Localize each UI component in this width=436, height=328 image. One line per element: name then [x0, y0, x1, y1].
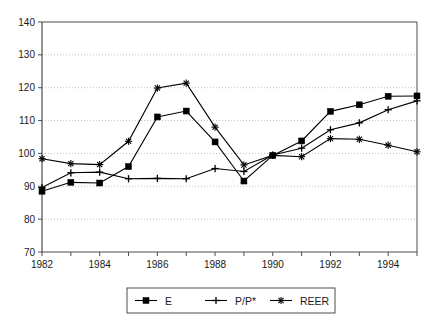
datapoint-REER-1988-asterisk-marker [211, 124, 218, 131]
datapoint-PP-1987-plus-marker [183, 175, 190, 182]
datapoint-PP-1985-plus-marker [125, 175, 132, 182]
datapoint-E-1985-square-marker [126, 164, 132, 170]
x-tick-label-1986: 1986 [146, 259, 169, 270]
datapoint-REER-1990-asterisk-marker [269, 152, 276, 159]
x-tick-label-1994: 1994 [377, 259, 400, 270]
y-tick-label-140: 140 [18, 17, 35, 28]
x-axis: 1982198419861988199019921994 [31, 252, 417, 270]
line-chart: 7080901001101201301401982198419861988199… [0, 0, 436, 328]
x-tick-label-1988: 1988 [204, 259, 227, 270]
y-tick-label-90: 90 [24, 181, 36, 192]
datapoint-E-1984-square-marker [97, 180, 103, 186]
datapoint-REER-1989-asterisk-marker [240, 161, 247, 168]
datapoint-PP-1983-plus-marker [67, 169, 74, 176]
datapoint-E-1994-square-marker [385, 93, 391, 99]
datapoint-REER-1995-asterisk-marker [413, 148, 420, 155]
datapoint-PP-1991-plus-marker [298, 145, 305, 152]
y-tick-label-70: 70 [24, 247, 36, 258]
y-tick-label-80: 80 [24, 214, 36, 225]
datapoint-REER-1994-asterisk-marker [385, 142, 392, 149]
y-tick-label-110: 110 [19, 115, 35, 126]
datapoint-E-1986-square-marker [154, 114, 160, 120]
legend-label-PP: P/P* [235, 295, 256, 307]
datapoint-E-1992-square-marker [327, 108, 333, 114]
legend-label-REER: REER [300, 295, 330, 307]
datapoint-REER-1991-asterisk-marker [298, 153, 305, 160]
series-line-E [42, 96, 417, 191]
datapoint-REER-1985-asterisk-marker [125, 138, 132, 145]
datapoint-REER-1983-asterisk-marker [67, 160, 74, 167]
y-tick-label-120: 120 [18, 82, 35, 93]
datapoint-PP-1989-plus-marker [240, 168, 247, 175]
y-tick-label-100: 100 [18, 148, 35, 159]
datapoint-PP-1986-plus-marker [154, 175, 161, 182]
datapoint-PP-1992-plus-marker [327, 126, 334, 133]
y-tick-label-130: 130 [18, 49, 35, 60]
datapoint-E-1991-square-marker [299, 138, 305, 144]
datapoint-REER-1984-asterisk-marker [96, 161, 103, 168]
series-REER [38, 80, 420, 169]
x-tick-label-1984: 1984 [89, 259, 112, 270]
datapoint-PP-1988-plus-marker [211, 165, 218, 172]
datapoint-REER-1993-asterisk-marker [356, 136, 363, 143]
x-tick-label-1992: 1992 [319, 259, 342, 270]
legend-marker-REER-asterisk-marker [277, 297, 284, 304]
gridlines [42, 55, 417, 219]
datapoint-E-1987-square-marker [183, 108, 189, 114]
datapoint-REER-1982-asterisk-marker [38, 155, 45, 162]
chart-container: 7080901001101201301401982198419861988199… [0, 0, 436, 328]
y-axis: 708090100110120130140 [18, 17, 42, 258]
legend-marker-E-square-marker [143, 298, 149, 304]
datapoint-E-1983-square-marker [68, 179, 74, 185]
datapoint-REER-1992-asterisk-marker [327, 135, 334, 142]
datapoint-E-1993-square-marker [356, 102, 362, 108]
legend: EP/P*REER [127, 288, 335, 313]
legend-label-E: E [165, 295, 172, 307]
datapoint-PP-1984-plus-marker [96, 169, 103, 176]
series-E [39, 93, 420, 194]
datapoint-E-1989-square-marker [241, 178, 247, 184]
series-PP [38, 97, 420, 191]
x-tick-label-1982: 1982 [31, 259, 54, 270]
datapoint-E-1988-square-marker [212, 139, 218, 145]
datapoint-REER-1986-asterisk-marker [154, 84, 161, 91]
series-line-PP [42, 101, 417, 188]
datapoint-REER-1987-asterisk-marker [183, 80, 190, 87]
series-line-REER [42, 83, 417, 165]
datapoint-PP-1994-plus-marker [385, 106, 392, 113]
datapoint-PP-1993-plus-marker [356, 119, 363, 126]
x-tick-label-1990: 1990 [262, 259, 285, 270]
plot-frame [42, 22, 417, 252]
